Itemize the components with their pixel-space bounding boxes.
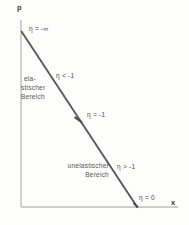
elastic-region-line-3: Bereich xyxy=(21,92,45,101)
elastic-region-line-2: stischer xyxy=(21,83,45,92)
elastic-region-line-1: ela- xyxy=(24,74,36,83)
inelastic-region-line-2: Bereich xyxy=(51,170,109,179)
y-axis-label: p xyxy=(17,4,22,13)
demand-curve-line xyxy=(21,31,137,208)
inelastic-region-line-1: unelastischer xyxy=(51,161,109,170)
eta-minus-infinity-label: η = -∞ xyxy=(29,25,48,34)
figure-canvas: p x η = -∞ η < -1 η = -1 η > -1 η = 0 el… xyxy=(0,0,189,225)
eta-greater-than-minus-one-label: η > -1 xyxy=(117,163,135,172)
x-axis-label: x xyxy=(171,199,175,208)
eta-equals-zero-label: η = 0 xyxy=(139,194,155,203)
eta-equals-minus-one-label: η = -1 xyxy=(87,111,105,120)
eta-less-than-minus-one-label: η < -1 xyxy=(56,72,74,81)
